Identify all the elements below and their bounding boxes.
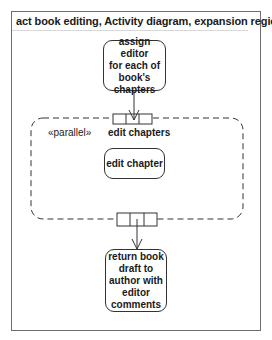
expansion-region-name: edit chapters [108, 127, 170, 138]
action-return-line-2: draft to [108, 263, 164, 275]
input-pin [113, 114, 152, 124]
action-assign-line-3: book's [104, 72, 165, 84]
action-return-line-1: return book [108, 251, 164, 263]
action-return-line-5: comments [108, 299, 164, 311]
expansion-region-mode: «parallel» [48, 127, 91, 138]
action-assign-line-4: chapters [104, 84, 165, 96]
action-assign-line-2: for each of [104, 60, 165, 72]
action-assign-editor[interactable]: assign editor for each of book's chapter… [103, 40, 166, 91]
action-return-book-draft[interactable]: return book draft to author with editor … [105, 249, 167, 312]
action-return-line-3: author with [108, 275, 164, 287]
action-return-line-4: editor [108, 287, 164, 299]
action-edit-line-1: edit chapter [106, 158, 163, 170]
action-edit-chapter[interactable]: edit chapter [104, 148, 165, 179]
action-assign-line-1: assign editor [104, 36, 165, 60]
